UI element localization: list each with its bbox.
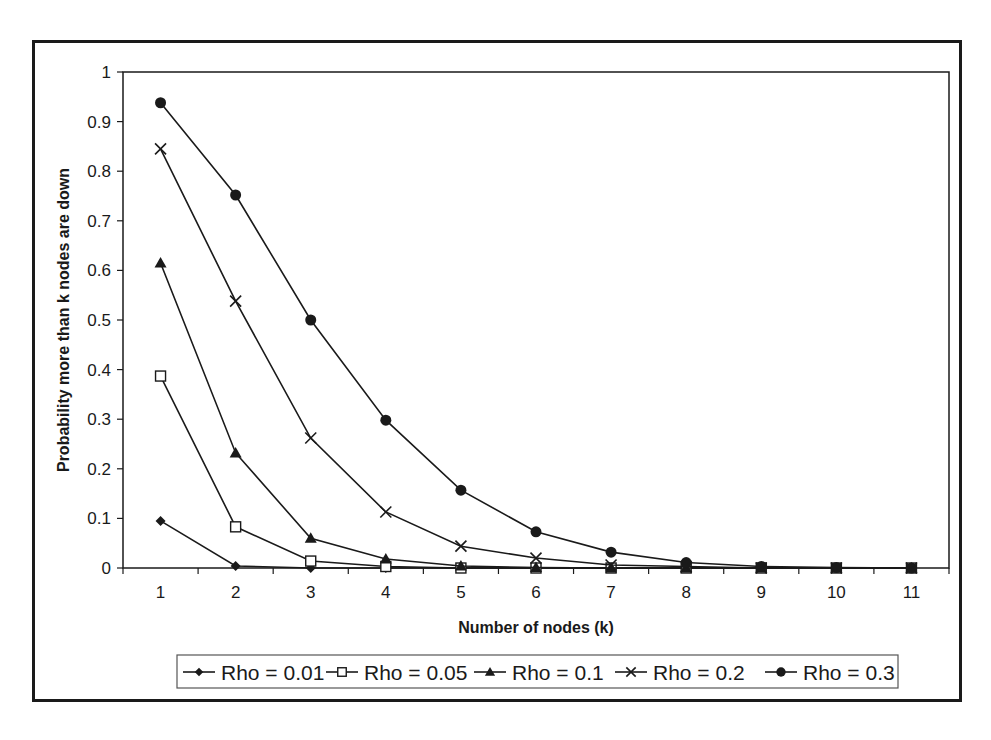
legend-label: Rho = 0.3 xyxy=(803,661,895,684)
x-marker-icon xyxy=(380,506,391,517)
circle-marker-icon xyxy=(455,485,466,496)
y-tick-label: 0.4 xyxy=(87,361,111,380)
y-axis-title: Probability more than k nodes are down xyxy=(55,168,72,472)
circle-marker-icon xyxy=(906,563,917,574)
legend-label: Rho = 0.2 xyxy=(653,661,745,684)
y-tick-label: 0 xyxy=(102,559,111,578)
x-tick-label: 4 xyxy=(381,583,390,602)
series-line xyxy=(161,149,912,568)
legend-label: Rho = 0.1 xyxy=(512,661,604,684)
circle-marker-icon xyxy=(531,526,542,537)
x-tick-label: 7 xyxy=(606,583,615,602)
series-layer xyxy=(155,97,918,573)
x-tick-label: 5 xyxy=(456,583,465,602)
circle-marker-icon xyxy=(756,561,767,572)
x-marker-icon xyxy=(230,296,241,307)
y-tick-label: 0.9 xyxy=(87,113,111,132)
x-tick-label: 2 xyxy=(231,583,240,602)
square-open-marker-icon xyxy=(231,522,241,532)
diamond-marker-icon xyxy=(156,516,166,526)
chart: 00.10.20.30.40.50.60.70.80.91 1234567891… xyxy=(0,0,991,740)
x-tick-label: 8 xyxy=(681,583,690,602)
x-tick-label: 6 xyxy=(531,583,540,602)
circle-marker-icon xyxy=(606,547,617,558)
series-line xyxy=(161,263,912,568)
series-rho-0-1 xyxy=(155,257,918,573)
x-marker-icon xyxy=(155,143,166,154)
x-axis-title: Number of nodes (k) xyxy=(458,619,614,636)
chart-canvas: 00.10.20.30.40.50.60.70.80.91 1234567891… xyxy=(0,0,991,740)
triangle-marker-icon xyxy=(155,257,167,268)
y-tick-label: 0.7 xyxy=(87,212,111,231)
circle-marker-icon xyxy=(776,667,785,676)
series-line xyxy=(161,376,912,568)
series-rho-0-05 xyxy=(156,371,917,573)
x-tick-label: 3 xyxy=(306,583,315,602)
y-tick-label: 0.1 xyxy=(87,509,111,528)
x-marker-icon xyxy=(305,433,316,444)
series-rho-0-3 xyxy=(155,97,917,573)
y-tick-label: 0.8 xyxy=(87,162,111,181)
square-open-marker-icon xyxy=(156,371,166,381)
x-tick-label: 10 xyxy=(827,583,846,602)
square-open-marker-icon xyxy=(338,668,347,677)
y-tick-label: 0.5 xyxy=(87,311,111,330)
y-tick-label: 0.3 xyxy=(87,410,111,429)
legend: Rho = 0.01Rho = 0.05Rho = 0.1Rho = 0.2Rh… xyxy=(177,655,898,688)
series-rho-0-2 xyxy=(155,143,917,573)
legend-label: Rho = 0.01 xyxy=(221,661,324,684)
x-tick-label: 9 xyxy=(757,583,766,602)
plot-border xyxy=(123,72,949,568)
triangle-marker-icon xyxy=(230,447,242,458)
x-tick-label: 1 xyxy=(156,583,165,602)
plot-area xyxy=(123,72,949,568)
series-line xyxy=(161,103,912,568)
circle-marker-icon xyxy=(155,97,166,108)
circle-marker-icon xyxy=(831,562,842,573)
y-axis: 00.10.20.30.40.50.60.70.80.91 xyxy=(87,63,123,578)
x-tick-label: 11 xyxy=(903,583,921,602)
circle-marker-icon xyxy=(681,557,692,568)
y-tick-label: 0.2 xyxy=(87,460,111,479)
circle-marker-icon xyxy=(380,415,391,426)
square-open-marker-icon xyxy=(306,556,316,566)
y-tick-label: 0.6 xyxy=(87,261,111,280)
circle-marker-icon xyxy=(230,190,241,201)
legend-label: Rho = 0.05 xyxy=(364,661,467,684)
circle-marker-icon xyxy=(305,315,316,326)
y-tick-label: 1 xyxy=(102,63,111,82)
diamond-marker-icon xyxy=(231,561,241,571)
